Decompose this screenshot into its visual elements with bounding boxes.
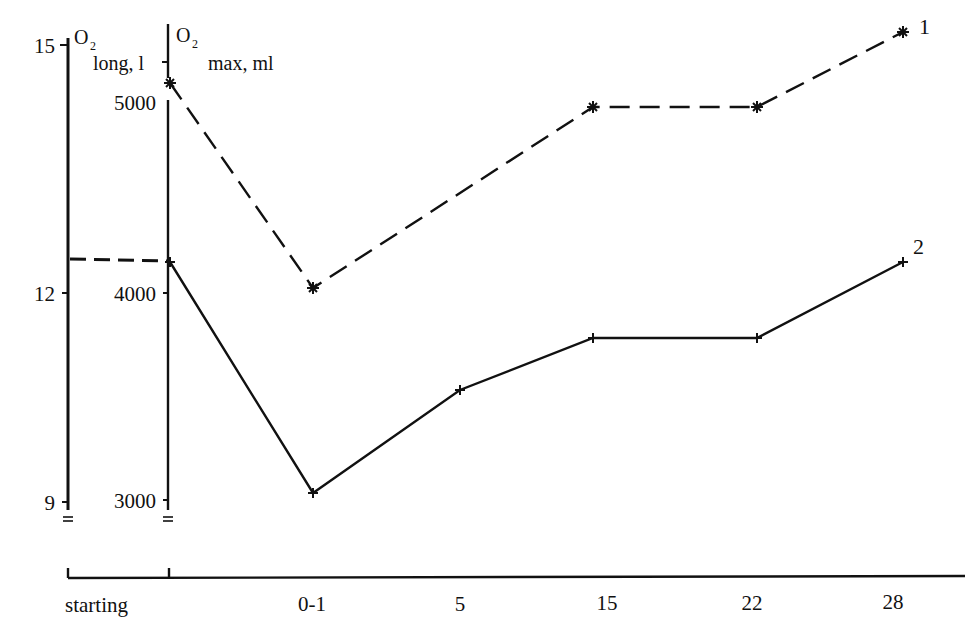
plus-marker	[165, 257, 908, 498]
series-1-label: 1	[919, 14, 930, 39]
right-y-axis: 5000 4000 3000 O 2 max, ml	[114, 24, 274, 521]
left-axis-title-sub: 2	[90, 39, 96, 53]
x-tick-28: 28	[883, 590, 904, 614]
right-tick-4000: 4000	[114, 282, 156, 306]
x-tick-15: 15	[597, 591, 618, 615]
left-axis-unit: long, l	[93, 52, 145, 75]
left-axis-title: O	[74, 26, 88, 48]
x-tick-22: 22	[742, 591, 763, 615]
left-tick-12: 12	[34, 282, 55, 306]
series-1: 1	[164, 14, 930, 294]
chart-container: 15 12 9 O 2 long, l 5000 4000 3000 O 2 m…	[0, 0, 980, 639]
left-tick-15: 15	[34, 34, 55, 58]
reference-dashed-line	[70, 259, 168, 261]
right-axis-unit: max, ml	[208, 52, 274, 74]
x-axis: starting 0-1 5 15 22 28	[65, 568, 965, 617]
right-axis-title-sub: 2	[192, 37, 198, 51]
left-tick-9: 9	[45, 491, 56, 515]
x-tick-starting: starting	[65, 593, 128, 617]
right-tick-3000: 3000	[114, 489, 156, 513]
line-chart: 15 12 9 O 2 long, l 5000 4000 3000 O 2 m…	[0, 0, 980, 639]
series-2-label: 2	[913, 234, 924, 259]
right-tick-5000: 5000	[114, 91, 156, 115]
asterisk-marker	[164, 26, 909, 294]
right-axis-title: O	[176, 24, 190, 46]
x-tick-5: 5	[455, 592, 466, 616]
x-tick-0-1: 0-1	[298, 592, 326, 616]
series-2: 2	[165, 234, 924, 498]
